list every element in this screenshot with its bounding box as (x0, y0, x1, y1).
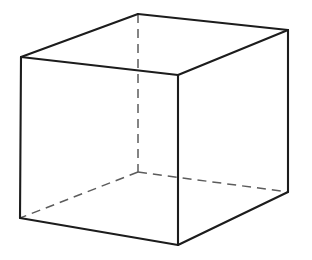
cube-figure: Cube perspective line drawing A hexahedr… (0, 0, 312, 260)
edge-vertical-left (20, 57, 21, 218)
